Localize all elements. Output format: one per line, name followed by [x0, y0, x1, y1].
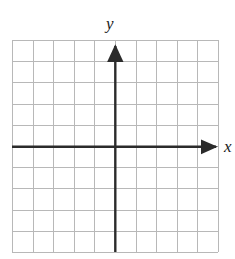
y-axis-label: y [106, 15, 114, 32]
axis-lines [12, 46, 216, 252]
coordinate-plane-svg [0, 0, 235, 259]
x-axis-label: x [224, 138, 232, 155]
coordinate-grid-figure: y x [0, 0, 235, 259]
